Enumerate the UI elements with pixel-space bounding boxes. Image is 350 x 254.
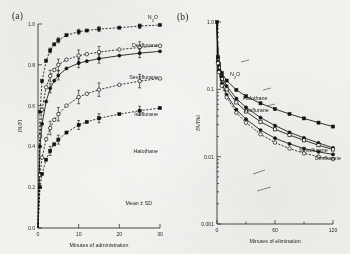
panel-a-datapoint-isoflurane [85, 92, 89, 96]
panel-a-datapoint-n2o [97, 28, 100, 31]
panel-a-datapoint-isoflurane [44, 138, 48, 142]
panel-a-datapoint-sevoflurane [40, 122, 43, 125]
panel-a-datapoint-halothane [77, 123, 80, 126]
panel-a-datapoint-halothane [57, 138, 60, 141]
panel-b-datapoint-sevoflurane [288, 142, 291, 145]
panel-a-datapoint-isoflurane [97, 88, 101, 92]
panel-b-datapoint-isoflurane [302, 139, 305, 142]
panel-a-datapoint-n2o [85, 29, 88, 32]
panel-a-datapoint-sevoflurane [57, 74, 60, 77]
panel-a-datapoint-halothane [49, 149, 52, 152]
panel-b-series-group [215, 20, 334, 203]
panel-b-datapoint-halothane [235, 97, 238, 100]
panel-b-datapoint-n2o [288, 112, 291, 115]
panel-a-xtick-4: 30 [157, 231, 163, 237]
panel-a-datapoint-halothane [118, 113, 121, 116]
panel-b-datapoint-n2o [302, 117, 305, 120]
panel-b-datapoint-desflurane [217, 70, 221, 74]
panel-a-datapoint-halothane [158, 106, 161, 109]
panel-b-label-desflurane: Desflurane [315, 155, 341, 161]
panel-b-label-n2o: N2O [230, 71, 240, 80]
panel-a-datapoint-n2o [65, 34, 68, 37]
panel-a-datapoint-halothane [41, 172, 44, 175]
panel-b-datapoint-n2o [317, 121, 320, 124]
panel-a-datapoint-sevoflurane [77, 62, 80, 65]
panel-a-datapoint-isoflurane [40, 156, 44, 160]
panel-a-datapoint-n2o [158, 23, 161, 26]
panel-a-label-desflurane: Desflurane [132, 42, 158, 48]
panel-a-datapoint-n2o [118, 26, 121, 29]
panel-a-xtick-3: 20 [116, 231, 122, 237]
panel-b-tag: (b) [177, 12, 189, 22]
panel-a-datapoint-n2o [45, 59, 48, 62]
panel-b-datapoint-sevoflurane [244, 118, 247, 121]
panel-a-label-halothane: Halothane [133, 148, 158, 154]
panel-a-label-isoflurane: Isoflurane [134, 111, 158, 117]
panel-a-ytick-5: 0.2 [28, 184, 35, 190]
panel-a-datapoint-desflurane [85, 52, 89, 56]
panel-b-datapoint-isoflurane [288, 133, 291, 136]
panel-a-datapoint-sevoflurane [97, 57, 100, 60]
panel-b-datapoint-n2o [331, 125, 334, 128]
panel-b-x-ticks: 0 60 120 [216, 220, 338, 233]
panel-b-datapoint-n2o [273, 107, 276, 110]
panel-a-ytick-3: 0.6 [28, 103, 35, 109]
panel-b-datapoint-desflurane [225, 96, 229, 100]
panel-b-datapoint-halothane [273, 124, 276, 127]
panel-b-leader-line [241, 60, 249, 62]
panel-b-xtick-2: 60 [272, 227, 278, 233]
panel-b-datapoint-n2o [225, 79, 228, 82]
panel-a-datapoint-desflurane [53, 68, 57, 72]
panel-a-datapoint-desflurane [158, 44, 162, 48]
panel-b-datapoint-sevoflurane [259, 129, 262, 132]
panel-b-series-labels: N2OHalothaneIsofluraneSevofluraneDesflur… [230, 60, 341, 191]
panel-a-datapoint-isoflurane [118, 83, 122, 87]
panel-b-datapoint-halothane [259, 116, 262, 119]
panel-a-datapoint-halothane [97, 117, 100, 120]
panel-a-xtick-2: 10 [76, 231, 82, 237]
panel-b-leader-line [253, 170, 265, 174]
panel-a-datapoint-sevoflurane [65, 67, 68, 70]
panel-a-datapoint-isoflurane [77, 95, 81, 99]
panel-a-plot: 1.0 0.8 0.6 0.4 0.2 0.0 0 10 20 30 Minut… [0, 0, 175, 254]
panel-b: (b) 1.0 0.1 0.01 0.001 0 60 [175, 0, 350, 254]
panel-b-datapoint-n2o [235, 88, 238, 91]
panel-b-ytick-1: 1.0 [207, 19, 214, 25]
panel-b-leader-line [267, 104, 275, 106]
panel-a-label-n2o: N2O [148, 14, 158, 23]
panel-a-datapoint-sevoflurane [49, 87, 52, 90]
panel-b-datapoint-isoflurane [331, 148, 334, 151]
panel-a-datapoint-halothane [65, 131, 68, 134]
panel-b-label-halothane: Halothane [243, 95, 268, 101]
panel-a-datapoint-isoflurane [48, 126, 52, 130]
panel-a-xtick-1: 0 [37, 231, 40, 237]
panel-b-label-sevoflurane: Sevoflurane [299, 147, 328, 153]
panel-a-ytick-2: 0.8 [28, 62, 35, 68]
panel-a-datapoint-sevoflurane [85, 60, 88, 63]
panel-b-datapoint-sevoflurane [273, 137, 276, 140]
panel-a-datapoint-sevoflurane [38, 145, 41, 148]
panel-b-datapoint-desflurane [216, 61, 220, 65]
panel-a-datapoint-desflurane [40, 108, 44, 112]
panel-a-datapoint-n2o [57, 39, 60, 42]
panel-b-datapoint-desflurane [288, 147, 292, 151]
panel-b-datapoint-desflurane [235, 111, 239, 115]
panel-a-datapoint-n2o [49, 49, 52, 52]
panel-b-ytick-4: 0.001 [201, 221, 214, 227]
panel-b-datapoint-isoflurane [225, 88, 228, 91]
panel-a-series-labels: N2ODesfluraneSevofluraneIsofluraneHaloth… [129, 14, 158, 154]
panel-a-datapoint-desflurane [44, 85, 48, 89]
panel-a-x-ticks: 0 10 20 30 [37, 224, 163, 237]
panel-a-curve-halothane [38, 108, 160, 228]
panel-a-x-axis-label: Minutes of administration [70, 242, 129, 248]
panel-a-series-group [38, 23, 162, 228]
panel-a-datapoint-desflurane [48, 74, 52, 78]
panel-b-xtick-3: 120 [329, 227, 338, 233]
panel-a-y-axis-label: FA/FI [17, 120, 23, 134]
panel-a-tag: (a) [12, 11, 23, 21]
panel-a-datapoint-isoflurane [65, 104, 69, 108]
panel-b-x-axis-label: Minutes of elimination [249, 238, 300, 244]
panel-a: (a) 1.0 0.8 0.6 0.4 0.2 0.0 [0, 0, 175, 254]
panel-b-datapoint-desflurane [244, 121, 248, 125]
panel-a-datapoint-n2o [53, 43, 56, 46]
